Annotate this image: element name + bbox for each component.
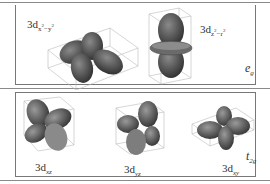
top-rule [0,2,270,3]
eg-group-label: eg [245,62,254,77]
eg-panel-right-edge [255,5,256,85]
orbital-label-dyz: 3dyz [124,164,141,178]
t2g-group-label: t2g [246,150,256,165]
orbital-label-dz2: 3dz2−r2 [200,24,225,38]
orbital-dx2y2-graphic [40,20,140,90]
orbital-label-dxz: 3dxz [35,162,52,176]
orbital-label-dxy: 3dxy [222,163,239,177]
orbital-dyz-graphic [110,98,166,156]
orbital-dxz-graphic [20,95,76,153]
orbital-dxy-graphic [190,104,256,154]
bottom-rule [0,180,270,181]
orbital-dz2-graphic [145,6,195,86]
